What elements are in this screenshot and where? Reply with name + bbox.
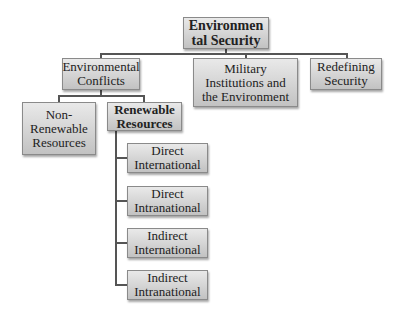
connector-level2-bar [58,95,145,97]
node-military-institutions: Military Institutions and the Environmen… [193,58,298,107]
connector-to-direct-intranational [115,200,127,202]
connector-to-indirect-international [115,242,127,244]
node-renewable-resources: Renewable Resources [107,102,182,131]
node-direct-intranational: Direct Intranational [127,186,208,216]
connector-renewable-spine [115,131,117,286]
node-environmental-conflicts: Environmental Conflicts [62,58,140,90]
node-indirect-international: Indirect International [127,228,208,258]
node-non-renewable-resources: Non-Renewable Resources [22,102,96,155]
node-indirect-intranational: Indirect Intranational [127,270,208,300]
connector-level1-bar [100,53,348,55]
connector-to-direct-international [115,157,127,159]
node-environmental-security: Environmen tal Security [183,17,269,49]
node-direct-international: Direct International [127,143,208,173]
connector-to-nonrenewable [58,95,60,102]
node-redefining-security: Redefining Security [310,58,382,90]
connector-to-renewable [143,95,145,102]
connector-to-indirect-intranational [115,284,127,286]
